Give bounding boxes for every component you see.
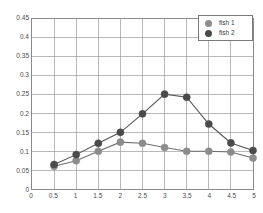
x-tick-label-10: 5 <box>252 193 256 200</box>
data-point-fish-1-8 <box>227 148 234 155</box>
legend-marker-fish-2 <box>205 30 212 37</box>
data-series-layer <box>32 19 253 189</box>
data-point-fish-2-5 <box>161 91 168 98</box>
data-point-fish-2-1 <box>73 151 80 158</box>
data-point-fish-2-8 <box>227 139 234 146</box>
data-point-fish-2-9 <box>249 147 256 154</box>
y-tick-label-1: 0.05 <box>16 168 29 175</box>
x-tick-label-2: 1 <box>74 193 78 200</box>
x-tick-label-7: 3.5 <box>183 193 192 200</box>
data-point-fish-2-0 <box>51 161 58 168</box>
y-tick-label-2: 0.1 <box>20 149 29 156</box>
legend-entry-fish-2: fish 2 <box>202 28 249 38</box>
data-point-fish-1-4 <box>139 140 146 147</box>
x-tick-label-8: 4 <box>208 193 212 200</box>
data-point-fish-2-7 <box>205 120 212 127</box>
data-point-fish-2-4 <box>139 110 146 117</box>
y-tick-label-8: 0.4 <box>20 34 29 41</box>
data-point-fish-1-9 <box>249 154 256 161</box>
x-tick-label-5: 2.5 <box>138 193 147 200</box>
legend-entry-fish-1: fish 1 <box>202 18 249 28</box>
data-point-fish-1-3 <box>117 139 124 146</box>
x-tick-label-6: 3 <box>163 193 167 200</box>
x-tick-label-3: 1.5 <box>93 193 102 200</box>
data-point-fish-1-2 <box>95 148 102 155</box>
y-tick-label-5: 0.25 <box>16 91 29 98</box>
chart-figure: 00.050.10.150.20.250.30.350.40.45 00.511… <box>0 0 263 213</box>
data-point-fish-2-2 <box>95 140 102 147</box>
y-tick-label-6: 0.3 <box>20 72 29 79</box>
y-tick-label-3: 0.15 <box>16 129 29 136</box>
data-point-fish-1-5 <box>161 144 168 151</box>
data-point-fish-2-3 <box>117 129 124 136</box>
legend-label-fish-2: fish 2 <box>219 30 235 37</box>
y-tick-label-9: 0.45 <box>16 15 29 22</box>
chart-legend: fish 1 fish 2 <box>198 15 253 41</box>
data-point-fish-1-6 <box>183 148 190 155</box>
y-tick-label-4: 0.2 <box>20 110 29 117</box>
plot-area <box>31 18 254 190</box>
legend-label-fish-1: fish 1 <box>219 20 235 27</box>
x-tick-label-0: 0 <box>29 193 33 200</box>
data-point-fish-2-6 <box>183 94 190 101</box>
y-tick-label-7: 0.35 <box>16 53 29 60</box>
x-tick-label-1: 0.5 <box>49 193 58 200</box>
legend-marker-fish-1 <box>205 20 212 27</box>
data-point-fish-1-7 <box>205 148 212 155</box>
x-tick-label-9: 4.5 <box>227 193 236 200</box>
x-tick-label-4: 2 <box>118 193 122 200</box>
